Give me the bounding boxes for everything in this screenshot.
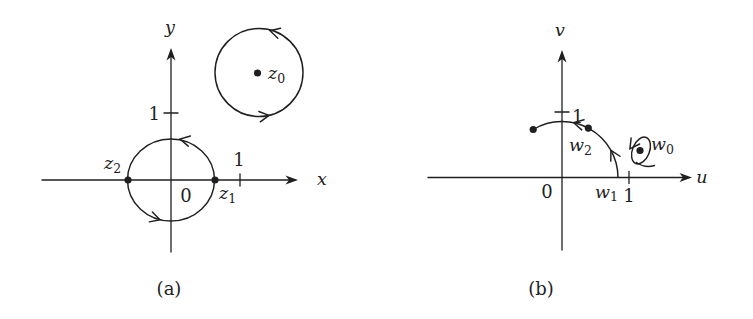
point-z2-dot (124, 176, 131, 183)
panel-a: y x 1 1 0 z2 z1 z0 (a) (42, 17, 327, 299)
w2-label-sub: 2 (584, 143, 592, 158)
y-tick-label: 1 (149, 103, 160, 124)
caption-b: (b) (528, 278, 554, 299)
u-tick-label: 1 (623, 185, 634, 206)
origin-label-a: 0 (180, 185, 191, 206)
point-w2-dot (585, 125, 592, 132)
point-z1-label: z1 (218, 183, 236, 206)
z1-label-sub: 1 (228, 191, 236, 206)
point-w2-label: w2 (569, 135, 592, 158)
point-w1-label: w1 (595, 182, 618, 205)
y-axis-label: y (164, 17, 176, 37)
w1-label-base: w (595, 182, 610, 202)
u-axis-label: u (696, 167, 707, 187)
point-w0-label: w0 (651, 134, 674, 157)
w0-label-sub: 0 (666, 142, 674, 157)
origin-label-b: 0 (541, 181, 552, 202)
panel-b: v u 1 1 0 w1 w2 w0 (b) (428, 20, 708, 299)
w0-label-base: w (651, 134, 666, 154)
w2-label-base: w (569, 135, 584, 155)
point-z0-dot (254, 69, 261, 76)
w1-label-sub: 1 (610, 189, 618, 204)
arc-end-dot (530, 126, 537, 133)
point-w0-dot (636, 147, 643, 154)
v-axis-label: v (555, 20, 565, 40)
x-axis-label: x (317, 169, 327, 189)
z2-label-sub: 2 (113, 161, 121, 176)
point-z1-dot (211, 176, 218, 183)
caption-a: (a) (157, 278, 182, 299)
v-tick-label: 1 (572, 106, 583, 127)
x-tick-label: 1 (233, 149, 244, 170)
z0-label-sub: 0 (277, 71, 285, 86)
circle-top-arrow-icon (179, 134, 190, 146)
point-z0-label: z0 (267, 63, 285, 86)
math-figure: y x 1 1 0 z2 z1 z0 (a) v u 1 1 (0, 0, 753, 319)
point-z2-label: z2 (103, 153, 121, 176)
